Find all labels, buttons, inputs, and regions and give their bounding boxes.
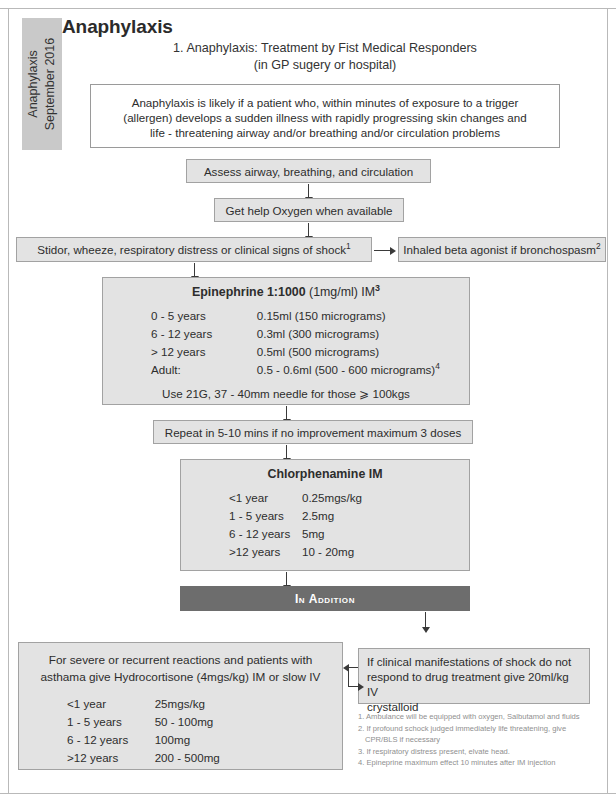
dose-amount: 0.3ml (300 micrograms) bbox=[257, 324, 469, 342]
epinephrine-dose-table: 0 - 5 years 0.15ml (150 micrograms) 6 - … bbox=[103, 306, 469, 378]
table-row: <1 year 0.25mgs/kg bbox=[181, 488, 469, 506]
side-tab-line-2: September 2016 bbox=[42, 38, 59, 130]
dose-amount: 200 - 500mg bbox=[155, 748, 342, 766]
footnote-2-continued: CPR/BLS if necessary bbox=[358, 735, 608, 746]
arrow-stridor-to-epinephrine bbox=[194, 263, 195, 276]
table-row: 1 - 5 years 2.5mg bbox=[181, 506, 469, 524]
dose-age: 6 - 12 years bbox=[103, 324, 257, 342]
dose-age: <1 year bbox=[19, 694, 155, 712]
dose-amount: 0.25mgs/kg bbox=[302, 488, 469, 506]
dose-age: <1 year bbox=[181, 488, 302, 506]
hydrocortisone-heading: For severe or recurrent reactions and pa… bbox=[19, 643, 342, 686]
chlorphenamine-title: Chlorphenamine IM bbox=[181, 460, 469, 488]
dose-age: 1 - 5 years bbox=[181, 506, 302, 524]
in-addition-banner: In Addition bbox=[180, 586, 470, 611]
arrow-stridor-to-inhaled bbox=[374, 250, 390, 251]
arrow-gethelp-to-stridor bbox=[308, 223, 309, 236]
table-row: Adult: 0.5 - 0.6ml (500 - 600 micrograms… bbox=[103, 360, 469, 378]
dose-amount: 0.5ml (500 micrograms) bbox=[257, 342, 469, 360]
footnote-3: 3. If respiratory distress present, elva… bbox=[358, 747, 608, 758]
get-help-step-label: Get help Oxygen when available bbox=[226, 203, 393, 218]
table-row: > 12 years 0.5ml (500 micrograms) bbox=[103, 342, 469, 360]
shock-line-2: respond to drug treatment give 20ml/kg I… bbox=[367, 669, 581, 699]
inhaled-beta-agonist-box: Inhaled beta agonist if bronchospasm2 bbox=[398, 237, 606, 262]
arrow-hydrocortisone-to-shock bbox=[349, 686, 358, 687]
stridor-step-label: Stidor, wheeze, respiratory distress or … bbox=[37, 242, 350, 257]
dose-age: >12 years bbox=[181, 542, 302, 560]
definition-box: Anaphylaxis is likely if a patient who, … bbox=[90, 84, 560, 148]
dose-age: >12 years bbox=[19, 748, 155, 766]
shock-text: If clinical manifestations of shock do n… bbox=[359, 649, 589, 719]
footnote-4: 4. Epineprine maximum effect 10 minutes … bbox=[358, 758, 608, 769]
side-tab-line-1: Anaphylaxis bbox=[25, 38, 42, 130]
epinephrine-title-light: (1mg/ml) IM bbox=[306, 285, 376, 299]
repeat-step-box: Repeat in 5-10 mins if no improvement ma… bbox=[153, 420, 473, 444]
dose-age: 1 - 5 years bbox=[19, 712, 155, 730]
page-rule-bottom bbox=[0, 793, 616, 794]
dose-age: Adult: bbox=[103, 360, 257, 378]
arrow-shock-to-hydrocortisone bbox=[349, 667, 358, 668]
side-tab: Anaphylaxis September 2016 bbox=[22, 18, 62, 150]
page-rule-top bbox=[0, 8, 616, 9]
hydrocortisone-dose-rows: <1 year 25mgs/kg 1 - 5 years 50 - 100mg … bbox=[19, 694, 342, 766]
table-row: 0 - 5 years 0.15ml (150 micrograms) bbox=[103, 306, 469, 324]
table-row: >12 years 200 - 500mg bbox=[19, 748, 342, 766]
table-row: 1 - 5 years 50 - 100mg bbox=[19, 712, 342, 730]
dose-age: 6 - 12 years bbox=[181, 524, 302, 542]
dose-amount: 50 - 100mg bbox=[155, 712, 342, 730]
inhaled-footnote-ref: 2 bbox=[596, 241, 601, 251]
table-row: 6 - 12 years 100mg bbox=[19, 730, 342, 748]
dose-amount: 25mgs/kg bbox=[155, 694, 342, 712]
page-rule-right bbox=[607, 8, 608, 794]
stridor-footnote-ref: 1 bbox=[346, 241, 351, 251]
hydrocortisone-heading-line-1: For severe or recurrent reactions and pa… bbox=[19, 652, 342, 669]
chlorphenamine-box: Chlorphenamine IM <1 year 0.25mgs/kg 1 -… bbox=[180, 459, 470, 571]
shock-line-1: If clinical manifestations of shock do n… bbox=[367, 654, 581, 669]
get-help-step-box: Get help Oxygen when available bbox=[214, 198, 404, 222]
footnote-1: 1. Ambulance will be equipped with oxyge… bbox=[358, 712, 608, 723]
in-addition-label: In Addition bbox=[295, 592, 355, 606]
arrow-banner-to-shock bbox=[425, 612, 426, 627]
subtitle-line-1: 1. Anaphylaxis: Treatment by Fist Medica… bbox=[90, 40, 560, 57]
epinephrine-box: Epinephrine 1:1000 (1mg/ml) IM3 0 - 5 ye… bbox=[102, 277, 470, 405]
page-title: Anaphylaxis bbox=[62, 16, 173, 38]
hydrocortisone-heading-line-2: asthama give Hydrocortisone (4mgs/kg) IM… bbox=[19, 669, 342, 686]
epinephrine-title-bold: Epinephrine 1:1000 bbox=[192, 285, 306, 299]
dose-age: 0 - 5 years bbox=[103, 306, 257, 324]
repeat-step-label: Repeat in 5-10 mins if no improvement ma… bbox=[165, 425, 461, 440]
hydrocortisone-dose-table: <1 year 25mgs/kg 1 - 5 years 50 - 100mg … bbox=[19, 694, 342, 766]
dose-amount: 2.5mg bbox=[302, 506, 469, 524]
cross-link-connector bbox=[348, 667, 349, 687]
page-rule-left bbox=[8, 8, 9, 794]
definition-line-2: (allergen) develops a sudden illness wit… bbox=[103, 110, 547, 125]
epinephrine-footnote-ref: 3 bbox=[375, 283, 380, 293]
dose-amount: 0.5 - 0.6ml (500 - 600 micrograms)4 bbox=[257, 360, 469, 378]
arrow-repeat-to-chlorphenamine bbox=[286, 445, 287, 458]
assess-step-label: Assess airway, breathing, and circulatio… bbox=[204, 164, 413, 179]
epinephrine-dose-rows: 0 - 5 years 0.15ml (150 micrograms) 6 - … bbox=[103, 306, 469, 378]
shock-box: If clinical manifestations of shock do n… bbox=[358, 648, 590, 704]
definition-text: Anaphylaxis is likely if a patient who, … bbox=[91, 85, 559, 150]
table-row: >12 years 10 - 20mg bbox=[181, 542, 469, 560]
dose-amount: 0.15ml (150 micrograms) bbox=[257, 306, 469, 324]
footnote-2: 2. If profound schock judged immediately… bbox=[358, 724, 608, 735]
dose-age: > 12 years bbox=[103, 342, 257, 360]
side-tab-text: Anaphylaxis September 2016 bbox=[25, 38, 59, 130]
dose-age: 6 - 12 years bbox=[19, 730, 155, 748]
chlorphenamine-dose-rows: <1 year 0.25mgs/kg 1 - 5 years 2.5mg 6 -… bbox=[181, 488, 469, 560]
inhaled-beta-agonist-label: Inhaled beta agonist if bronchospasm2 bbox=[403, 242, 600, 257]
page-subtitle: 1. Anaphylaxis: Treatment by Fist Medica… bbox=[90, 40, 560, 74]
table-row: 6 - 12 years 0.3ml (300 micrograms) bbox=[103, 324, 469, 342]
dose-amount: 5mg bbox=[302, 524, 469, 542]
subtitle-line-2: (in GP sugery or hospital) bbox=[90, 57, 560, 74]
table-row: 6 - 12 years 5mg bbox=[181, 524, 469, 542]
dose-amount: 10 - 20mg bbox=[302, 542, 469, 560]
epinephrine-needle-note: Use 21G, 37 - 40mm needle for those ⩾ 10… bbox=[103, 378, 469, 407]
hydrocortisone-box: For severe or recurrent reactions and pa… bbox=[18, 642, 343, 770]
arrow-assess-to-gethelp bbox=[308, 184, 309, 197]
epinephrine-title: Epinephrine 1:1000 (1mg/ml) IM3 bbox=[103, 278, 469, 306]
definition-line-3: life - threatening airway and/or breathi… bbox=[103, 125, 547, 140]
anaphylaxis-flowchart-page: Anaphylaxis September 2016 Anaphylaxis 1… bbox=[0, 0, 616, 808]
stridor-step-box: Stidor, wheeze, respiratory distress or … bbox=[16, 237, 372, 262]
footnotes: 1. Ambulance will be equipped with oxyge… bbox=[358, 712, 608, 770]
